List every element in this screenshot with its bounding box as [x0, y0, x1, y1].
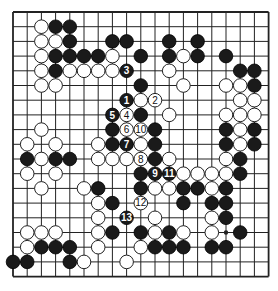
- white-stone: [91, 64, 105, 78]
- numbered-move-2: 2: [148, 93, 162, 107]
- black-stone: [233, 152, 247, 166]
- move-number-label: 13: [121, 212, 133, 223]
- black-stone: [134, 226, 148, 240]
- black-stone: [134, 182, 148, 196]
- black-stone: [248, 123, 262, 137]
- black-stone: [106, 226, 120, 240]
- move-number-label: 12: [135, 197, 147, 208]
- numbered-move-5: 5: [106, 108, 120, 122]
- white-stone: [35, 152, 49, 166]
- black-stone: [6, 255, 20, 269]
- white-stone: [162, 182, 176, 196]
- white-stone: [233, 108, 247, 122]
- white-stone: [106, 152, 120, 166]
- white-stone: [191, 167, 205, 181]
- white-stone: [106, 49, 120, 63]
- move-number-label: 7: [124, 139, 130, 150]
- white-stone: [35, 20, 49, 34]
- white-stone: [35, 123, 49, 137]
- black-stone: [49, 64, 63, 78]
- numbered-move-8: 8: [134, 152, 148, 166]
- white-stone: [35, 79, 49, 93]
- black-stone: [148, 138, 162, 152]
- black-stone: [49, 49, 63, 63]
- black-stone: [233, 64, 247, 78]
- black-stone: [20, 152, 34, 166]
- move-number-label: 10: [135, 124, 147, 135]
- black-stone: [49, 152, 63, 166]
- white-stone: [205, 182, 219, 196]
- white-stone: [35, 226, 49, 240]
- black-stone: [63, 20, 77, 34]
- black-stone: [162, 49, 176, 63]
- black-stone: [148, 152, 162, 166]
- white-stone: [49, 79, 63, 93]
- white-stone: [134, 240, 148, 254]
- black-stone: [106, 196, 120, 210]
- numbered-move-11: 11: [162, 167, 176, 181]
- black-stone: [120, 35, 134, 49]
- black-stone: [106, 138, 120, 152]
- white-stone: [233, 138, 247, 152]
- white-stone: [248, 108, 262, 122]
- white-stone: [248, 93, 262, 107]
- white-stone: [20, 138, 34, 152]
- black-stone: [49, 240, 63, 254]
- black-stone: [63, 35, 77, 49]
- numbered-move-9: 9: [148, 167, 162, 181]
- black-stone: [148, 240, 162, 254]
- white-stone: [205, 226, 219, 240]
- black-stone: [162, 226, 176, 240]
- black-stone: [177, 196, 191, 210]
- black-stone: [106, 123, 120, 137]
- white-stone: [120, 255, 134, 269]
- move-number-label: 4: [124, 110, 130, 121]
- white-stone: [148, 226, 162, 240]
- black-stone: [63, 49, 77, 63]
- black-stone: [91, 49, 105, 63]
- black-stone: [162, 240, 176, 254]
- white-stone: [162, 108, 176, 122]
- black-stone: [219, 138, 233, 152]
- black-stone: [148, 123, 162, 137]
- black-stone: [233, 167, 247, 181]
- black-stone: [91, 182, 105, 196]
- white-stone: [77, 255, 91, 269]
- black-stone: [134, 108, 148, 122]
- white-stone: [91, 226, 105, 240]
- black-stone: [134, 79, 148, 93]
- black-stone: [219, 182, 233, 196]
- white-stone: [148, 182, 162, 196]
- numbered-move-13: 13: [120, 211, 134, 225]
- white-stone: [177, 226, 191, 240]
- white-stone: [35, 35, 49, 49]
- move-number-label: 1: [124, 95, 130, 106]
- white-stone: [177, 49, 191, 63]
- white-stone: [162, 64, 176, 78]
- white-stone: [91, 138, 105, 152]
- black-stone: [63, 240, 77, 254]
- black-stone: [49, 20, 63, 34]
- black-stone: [63, 152, 77, 166]
- white-stone: [77, 64, 91, 78]
- black-stone: [219, 49, 233, 63]
- black-stone: [77, 49, 91, 63]
- white-stone: [177, 167, 191, 181]
- white-stone: [205, 211, 219, 225]
- white-stone: [219, 152, 233, 166]
- white-stone: [91, 196, 105, 210]
- black-stone: [248, 138, 262, 152]
- move-number-label: 6: [124, 124, 130, 135]
- go-board-diagram: 12345678910111213: [0, 0, 278, 291]
- white-stone: [77, 182, 91, 196]
- move-number-label: 2: [152, 95, 158, 106]
- white-stone: [49, 167, 63, 181]
- white-stone: [20, 226, 34, 240]
- black-stone: [134, 49, 148, 63]
- white-stone: [91, 240, 105, 254]
- black-stone: [63, 255, 77, 269]
- white-stone: [205, 167, 219, 181]
- move-number-label: 11: [164, 168, 175, 179]
- numbered-move-12: 12: [134, 196, 148, 210]
- white-stone: [91, 211, 105, 225]
